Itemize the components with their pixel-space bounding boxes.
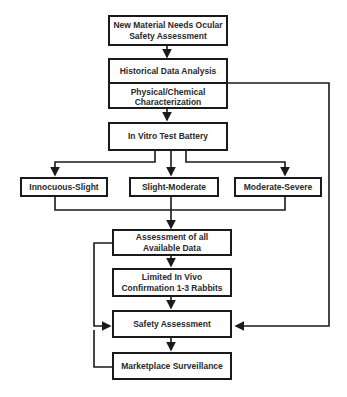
node-innocuous-slight: Innocuous-Slight: [20, 177, 108, 197]
node-safety-assessment: Safety Assessment: [112, 310, 232, 338]
node-invitro: In Vitro Test Battery: [108, 122, 228, 151]
node-historical: Historical Data Analysis: [110, 60, 226, 82]
node-slight-moderate: Slight-Moderate: [129, 177, 219, 197]
node-marketplace-surveillance: Marketplace Surveillance: [112, 352, 232, 380]
node-physchem: Physical/Chemical Characterization: [110, 82, 226, 109]
node-stacked-analysis: Historical Data Analysis Physical/Chemic…: [108, 58, 228, 109]
node-assessment-all: Assessment of all Available Data: [112, 229, 232, 256]
node-moderate-severe: Moderate-Severe: [234, 177, 322, 197]
node-invivo: Limited In Vivo Confirmation 1-3 Rabbits: [112, 268, 232, 297]
node-start: New Material Needs Ocular Safety Assessm…: [108, 15, 228, 46]
